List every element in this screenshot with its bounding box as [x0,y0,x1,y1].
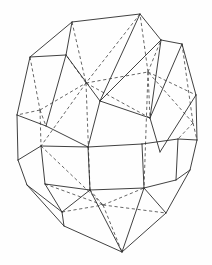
polyhedron-wireframe-svg [0,0,212,265]
figure-background [0,0,212,265]
polyhedron-figure [0,0,212,265]
